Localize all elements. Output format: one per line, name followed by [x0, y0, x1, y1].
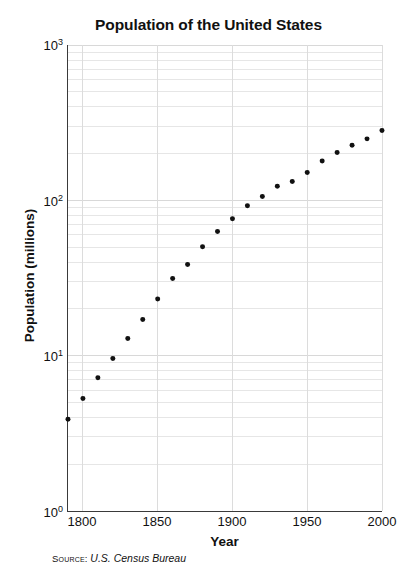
data-point — [380, 128, 385, 133]
data-point — [365, 136, 370, 141]
source-value: U.S. Census Bureau — [90, 552, 186, 564]
chart-figure: Population of the United States 10010110… — [0, 0, 417, 580]
data-point — [185, 262, 190, 267]
x-axis-title: Year — [67, 534, 382, 549]
data-point — [260, 194, 265, 199]
x-axis-tick-labels: 18001850190019502000 — [67, 514, 382, 536]
data-point — [305, 170, 310, 175]
data-point — [245, 203, 250, 208]
source-label: Source: — [52, 553, 88, 564]
x-axis-tick-label: 2000 — [368, 514, 397, 529]
data-point — [155, 296, 160, 301]
data-point — [140, 317, 145, 322]
data-point — [320, 158, 325, 163]
x-axis-tick-label: 1800 — [68, 514, 97, 529]
data-point — [170, 276, 175, 281]
data-point — [200, 244, 205, 249]
data-point — [215, 229, 220, 234]
x-axis-tick-label: 1850 — [143, 514, 172, 529]
chart-title: Population of the United States — [0, 16, 417, 34]
y-axis-tick-label: 101 — [44, 349, 63, 364]
y-axis-tick-label: 102 — [44, 193, 63, 208]
data-point — [80, 396, 85, 401]
data-points-layer — [68, 45, 382, 511]
data-point — [335, 150, 340, 155]
data-point — [290, 179, 295, 184]
data-point — [125, 336, 130, 341]
data-point — [230, 216, 235, 221]
y-axis-tick-label: 100 — [44, 505, 63, 520]
x-axis-tick-label: 1950 — [293, 514, 322, 529]
y-axis-title: Population (millions) — [22, 166, 37, 386]
y-axis-tick-label: 103 — [44, 38, 63, 53]
plot-area — [67, 45, 382, 512]
x-axis-tick-label: 1900 — [218, 514, 247, 529]
data-point — [66, 417, 71, 422]
data-point — [350, 143, 355, 148]
source-note: Source: U.S. Census Bureau — [52, 552, 186, 564]
data-point — [275, 184, 280, 189]
data-point — [110, 356, 115, 361]
data-point — [95, 375, 100, 380]
